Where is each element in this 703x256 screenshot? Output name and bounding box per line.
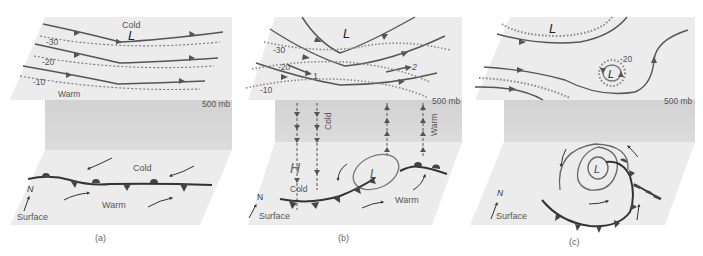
column-cold-label: Cold xyxy=(323,112,333,130)
low-pressure-label: L xyxy=(343,26,350,41)
level-label: 500 mb xyxy=(432,96,461,106)
panel-caption: (a) xyxy=(95,233,106,243)
mid-latitude-cyclone-diagram: -30 -20 -10 Cold L Warm 500 mb Cold Warm… xyxy=(0,0,703,256)
surface-low-label: L xyxy=(594,163,600,175)
isotherm-label: -20 xyxy=(42,57,55,67)
surface-cold-label: Cold xyxy=(133,163,152,173)
marker-2: 2 xyxy=(411,62,417,72)
north-label: N xyxy=(27,184,34,194)
surface-label: Surface xyxy=(17,212,48,222)
high-pressure-label: H xyxy=(290,160,301,176)
panel-a: -30 -20 -10 Cold L Warm 500 mb Cold Warm… xyxy=(10,17,232,243)
panel-caption: (b) xyxy=(338,233,349,243)
level-label: 500 mb xyxy=(664,96,693,106)
isotherm-label: -20 xyxy=(278,62,291,72)
surface-label: Surface xyxy=(259,211,290,221)
column-warm-label: Warm xyxy=(429,114,439,136)
column-band xyxy=(504,100,695,142)
panel-c: L L -20 500 mb L xyxy=(470,17,695,247)
north-label: N xyxy=(497,188,504,198)
marker-1: 1 xyxy=(313,71,318,81)
upper-plane xyxy=(475,17,695,100)
warm-label: Warm xyxy=(58,89,80,99)
north-label: N xyxy=(257,192,263,202)
cutoff-low-label: L xyxy=(608,68,614,80)
level-label: 500 mb xyxy=(202,99,231,109)
surface-warm-label: Warm xyxy=(102,200,126,210)
surface-label: Surface xyxy=(496,211,527,221)
upper-plane xyxy=(248,17,462,100)
isotherm-label: -20 xyxy=(620,54,633,64)
surface-cold-label: Cold xyxy=(290,184,308,194)
isotherm-label: -30 xyxy=(273,45,286,55)
isotherm-label: -30 xyxy=(46,37,59,47)
isotherm-label: -10 xyxy=(260,85,273,95)
isotherm-label: -10 xyxy=(33,77,46,87)
low-pressure-label: L xyxy=(549,21,556,36)
surface-warm-label: Warm xyxy=(395,195,419,205)
low-pressure-label: L xyxy=(128,28,135,43)
panel-b: -30 -20 -10 L 1 2 500 mb Cold Warm H L xyxy=(246,17,462,243)
panel-caption: (c) xyxy=(569,237,580,247)
